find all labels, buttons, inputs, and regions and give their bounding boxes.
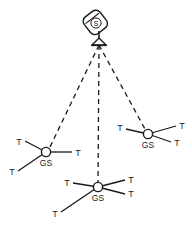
beam-to-gs-right (99, 45, 145, 129)
gs-left[interactable]: GS T T T (9, 137, 81, 177)
network-diagram: S GS T T T (0, 0, 192, 226)
gs-bottom-node[interactable] (93, 182, 102, 191)
gs-right-node[interactable] (143, 129, 152, 138)
beam-to-gs-left (50, 45, 99, 147)
gs-bottom-terminal-label-2: T (52, 209, 58, 219)
gs-bottom-terminal-label-1: T (64, 178, 70, 188)
gs-right-terminal-label-1: T (117, 123, 123, 133)
gs-bottom[interactable]: GS T T T T (52, 175, 134, 219)
gs-left-terminal-label-1: T (16, 137, 22, 147)
beam-to-gs-bottom (98, 45, 99, 182)
gs-bottom-label: GS (92, 193, 105, 203)
satellite-label: S (93, 19, 98, 28)
beam-group (50, 45, 145, 182)
gs-right-terminal-label-3: T (174, 138, 180, 148)
satellite[interactable]: S (81, 8, 110, 45)
gs-right-terminal-label-2: T (179, 121, 185, 131)
gs-right-label: GS (142, 140, 155, 150)
gs-right[interactable]: GS T T T (117, 121, 185, 150)
gs-left-terminal-label-2: T (9, 167, 15, 177)
gs-bottom-terminal-label-4: T (128, 189, 134, 199)
gs-left-label: GS (40, 158, 53, 168)
gs-bottom-terminal-label-3: T (128, 175, 134, 185)
satellite-antenna-icon (92, 38, 106, 45)
diagram-canvas: S GS T T T (0, 0, 192, 226)
gs-left-node[interactable] (41, 147, 50, 156)
gs-left-terminal-label-3: T (75, 148, 81, 158)
